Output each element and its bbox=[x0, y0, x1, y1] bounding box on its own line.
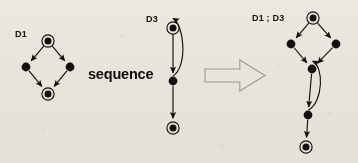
node-terminal bbox=[307, 12, 319, 24]
node-state bbox=[308, 65, 317, 74]
figure-canvas: D1 sequence D3 D1 ; D3 bbox=[0, 0, 358, 163]
node-group-d1-d3 bbox=[287, 12, 341, 153]
node-state bbox=[332, 40, 341, 49]
edge-arrow bbox=[317, 23, 330, 38]
node-state bbox=[304, 111, 313, 120]
node-state bbox=[287, 40, 296, 49]
edge-group-d1-d3 bbox=[294, 23, 332, 137]
edge-arrow bbox=[318, 48, 333, 64]
edge-arrow bbox=[307, 120, 308, 137]
node-terminal bbox=[300, 141, 312, 153]
edge-arrow bbox=[309, 74, 312, 107]
graph-d1-d3 bbox=[0, 0, 358, 163]
edge-arrow bbox=[296, 23, 309, 38]
edge-arrow bbox=[294, 48, 307, 63]
